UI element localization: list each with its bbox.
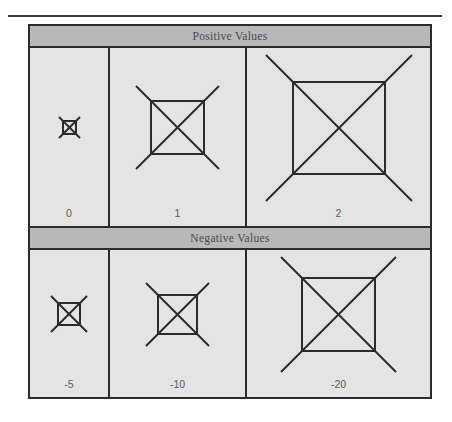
top-horizontal-rule — [8, 15, 442, 17]
section-header-negative: Negative Values — [30, 226, 430, 250]
crossed-box-icon — [110, 250, 245, 378]
cell-label: 0 — [66, 207, 72, 226]
grid-cell: -10 — [110, 250, 247, 397]
crossed-box-icon — [30, 48, 108, 207]
figure-root: Positive Values 0 — [0, 0, 452, 422]
cell-label: -20 — [331, 378, 346, 397]
cell-label: -10 — [170, 378, 185, 397]
grid-cell: 1 — [110, 48, 247, 226]
section-body-positive: 0 1 — [30, 48, 430, 226]
section-negative-values: Negative Values -5 — [30, 226, 430, 397]
grid-cell: -20 — [247, 250, 430, 397]
crossed-box-icon — [30, 250, 108, 378]
grid-cell: -5 — [30, 250, 110, 397]
cell-label: 2 — [336, 207, 342, 226]
section-positive-values: Positive Values 0 — [30, 26, 430, 226]
section-header-positive: Positive Values — [30, 26, 430, 48]
value-grid-table: Positive Values 0 — [28, 24, 432, 399]
crossed-box-icon — [110, 48, 245, 207]
section-body-negative: -5 -10 — [30, 250, 430, 397]
crossed-box-icon — [247, 250, 430, 378]
cell-label: -5 — [64, 378, 73, 397]
crossed-box-icon — [247, 48, 430, 207]
cell-label: 1 — [175, 207, 181, 226]
grid-cell: 0 — [30, 48, 110, 226]
grid-cell: 2 — [247, 48, 430, 226]
